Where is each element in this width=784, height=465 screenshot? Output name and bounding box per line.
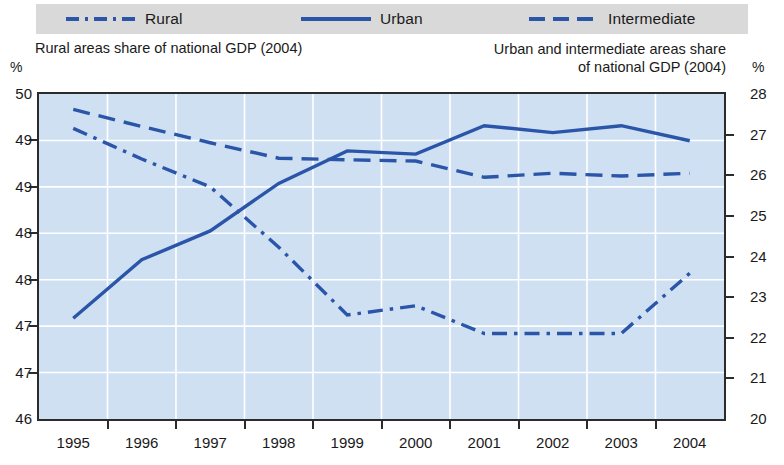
y-tick-label-left: 50 (2, 85, 32, 102)
y-tick-label-left: 47 (2, 364, 32, 381)
right-axis-title-line2: of national GDP (2004) (494, 58, 726, 76)
y-tick-label-right: 22 (750, 329, 767, 346)
y-tick-label-right: 24 (750, 248, 767, 265)
x-tick-label: 2000 (386, 434, 446, 451)
y-tick-label-left: 48 (2, 271, 32, 288)
right-axis-unit: % (752, 59, 764, 75)
y-tick-label-left: 48 (2, 224, 32, 241)
x-tick-label: 1998 (249, 434, 309, 451)
y-tick-right (726, 296, 734, 298)
x-tick (449, 421, 451, 429)
y-tick-label-right: 21 (750, 369, 767, 386)
y-tick-right (726, 174, 734, 176)
x-tick-label: 1999 (317, 434, 377, 451)
x-tick (107, 421, 109, 429)
left-axis-unit: % (10, 59, 22, 75)
y-tick-label-right: 26 (750, 166, 767, 183)
left-axis-title: Rural areas share of national GDP (2004) (35, 40, 302, 56)
legend-label-rural: Rural (145, 10, 183, 28)
line-dash-dot-swatch-icon (66, 13, 136, 25)
right-axis-title: Urban and intermediate areas share of na… (494, 40, 726, 76)
right-axis-title-line1: Urban and intermediate areas share (494, 40, 726, 58)
y-tick-label-right: 23 (750, 288, 767, 305)
x-tick (381, 421, 383, 429)
y-tick-right (726, 134, 734, 136)
x-tick (586, 421, 588, 429)
x-tick (312, 421, 314, 429)
y-tick-label-left: 46 (2, 410, 32, 427)
y-tick-label-right: 27 (750, 126, 767, 143)
line-dashed-swatch-icon (529, 13, 599, 25)
legend-label-urban: Urban (380, 10, 423, 28)
x-tick (655, 421, 657, 429)
y-tick-label-left: 47 (2, 317, 32, 334)
y-tick-label-left: 49 (2, 131, 32, 148)
y-tick-right (726, 337, 734, 339)
plot-svg (39, 94, 724, 419)
x-tick-label: 1996 (112, 434, 172, 451)
y-tick-label-right: 20 (750, 410, 767, 427)
y-tick-right (726, 377, 734, 379)
x-tick-label: 1995 (43, 434, 103, 451)
y-tick-right (726, 215, 734, 217)
x-tick (175, 421, 177, 429)
x-tick-label: 2003 (591, 434, 651, 451)
legend-item-intermediate: Intermediate (529, 4, 695, 34)
y-tick-label-right: 28 (750, 85, 767, 102)
legend-item-urban: Urban (301, 4, 423, 34)
plot-area (37, 92, 726, 421)
x-tick-label: 2002 (523, 434, 583, 451)
x-tick-label: 2004 (660, 434, 720, 451)
x-tick-label: 2001 (454, 434, 514, 451)
line-solid-swatch-icon (301, 13, 371, 25)
chart-legend: Rural Urban Intermediate (36, 4, 748, 34)
legend-label-intermediate: Intermediate (608, 10, 695, 28)
y-tick-right (726, 256, 734, 258)
x-tick (244, 421, 246, 429)
x-tick-label: 1997 (180, 434, 240, 451)
y-tick-label-right: 25 (750, 207, 767, 224)
legend-item-rural: Rural (66, 4, 183, 34)
gridlines (39, 94, 724, 419)
x-tick (518, 421, 520, 429)
y-tick-label-left: 49 (2, 178, 32, 195)
